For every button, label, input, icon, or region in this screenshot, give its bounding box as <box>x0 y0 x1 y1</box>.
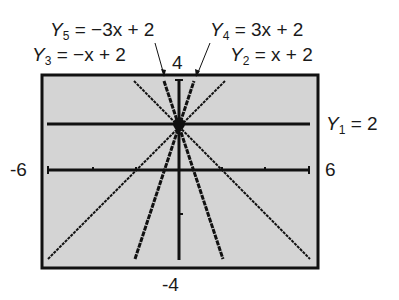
label-y5: Y5 = −3x + 2 <box>50 20 154 42</box>
intersection-point <box>173 118 185 130</box>
ymin-label: -4 <box>162 275 179 294</box>
label-y2: Y2 = x + 2 <box>230 45 313 67</box>
callout-arrow-y4 <box>197 43 210 75</box>
label-y4: Y4 = 3x + 2 <box>210 20 303 42</box>
label-y1: Y1 = 2 <box>326 114 378 136</box>
label-y3: Y3 = −x + 2 <box>32 45 126 67</box>
ymax-label: 4 <box>172 53 183 72</box>
xmax-label: 6 <box>325 160 336 179</box>
xmin-label: -6 <box>10 160 27 179</box>
